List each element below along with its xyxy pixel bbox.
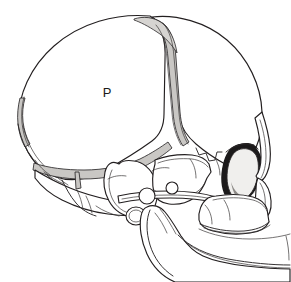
skull-drawing (0, 0, 291, 282)
chin-line (286, 236, 289, 260)
parietal-bone-outline (19, 15, 165, 179)
skull-lateral-figure: P (0, 0, 291, 282)
articular-tubercle (166, 182, 178, 194)
parietal-bone-label: P (95, 84, 119, 102)
mandibular-condyle (139, 188, 155, 204)
